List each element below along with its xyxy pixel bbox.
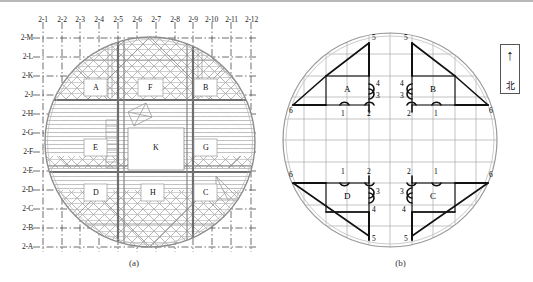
column-label: 2-7 — [147, 15, 165, 24]
row-label: 2-L — [0, 52, 33, 61]
zone-label-d: D — [344, 192, 351, 201]
figure-root: 2-1 2-2 2-3 2-4 2-5 2-6 2-7 2-8 2-9 2-10… — [0, 0, 533, 282]
zone-label-a: A — [92, 83, 100, 92]
zone-label-k: K — [152, 143, 160, 152]
north-indicator: ↑ 北 — [500, 44, 520, 94]
panel-a-caption: (a) — [0, 258, 268, 268]
column-label: 2-2 — [53, 15, 71, 24]
point-label-b-1: 1 — [434, 110, 438, 118]
panel-b-caption: (b) — [268, 258, 533, 268]
zone-label-g: G — [202, 143, 210, 152]
column-label: 2-6 — [128, 15, 146, 24]
panel-a-drawing — [0, 0, 268, 282]
point-label-c-4: 4 — [402, 206, 406, 214]
point-label-d-3: 3 — [376, 188, 380, 196]
point-label-d-4: 4 — [372, 206, 376, 214]
zone-label-h: H — [149, 188, 157, 197]
column-label: 2-3 — [71, 15, 89, 24]
point-label-a-5: 5 — [372, 34, 376, 42]
point-label-b-2: 2 — [407, 110, 411, 118]
zone-label-b: B — [430, 85, 436, 94]
point-label-b-6: 6 — [489, 107, 493, 115]
north-arrow-icon: ↑ — [506, 48, 514, 63]
point-label-b-3: 3 — [400, 92, 404, 100]
row-label: 2-K — [0, 71, 33, 80]
point-label-c-5: 5 — [404, 235, 408, 243]
row-label: 2-J — [0, 90, 33, 99]
row-label: 2-D — [0, 185, 33, 194]
point-label-c-6: 6 — [489, 171, 493, 179]
column-label: 2-10 — [201, 15, 222, 24]
zone-label-d: D — [92, 188, 100, 197]
column-label: 2-8 — [166, 15, 184, 24]
point-label-a-3: 3 — [376, 92, 380, 100]
zone-label-c: C — [430, 192, 436, 201]
point-label-a-6: 6 — [289, 107, 293, 115]
point-label-d-5: 5 — [372, 235, 376, 243]
point-label-d-6: 6 — [289, 171, 293, 179]
row-label: 2-B — [0, 223, 33, 232]
zone-a-sensor-group — [293, 43, 374, 112]
point-label-c-3: 3 — [400, 188, 404, 196]
column-label: 2-9 — [184, 15, 202, 24]
panel-a: 2-1 2-2 2-3 2-4 2-5 2-6 2-7 2-8 2-9 2-10… — [0, 0, 268, 282]
row-label: 2-H — [0, 109, 33, 118]
column-label: 2-12 — [241, 15, 262, 24]
point-label-d-1: 1 — [341, 168, 345, 176]
row-label: 2-F — [0, 147, 33, 156]
point-label-b-5: 5 — [404, 34, 408, 42]
column-label: 2-4 — [90, 15, 108, 24]
column-label: 2-5 — [109, 15, 127, 24]
panel-b-drawing — [268, 0, 533, 282]
row-label: 2-M — [0, 33, 33, 42]
row-label: 2-C — [0, 204, 33, 213]
point-label-a-4: 4 — [376, 80, 380, 88]
zone-label-c: C — [202, 188, 209, 197]
zone-label-e: E — [92, 143, 99, 152]
row-label: 2-E — [0, 166, 33, 175]
north-label: 北 — [506, 82, 515, 91]
point-label-a-1: 1 — [341, 110, 345, 118]
point-label-c-1: 1 — [434, 168, 438, 176]
column-label: 2-1 — [34, 15, 52, 24]
zone-label-a: A — [344, 85, 351, 94]
truss-plan — [45, 37, 255, 247]
zone-label-f: F — [147, 83, 153, 92]
row-label: 2-G — [0, 128, 33, 137]
column-label: 2-11 — [221, 15, 242, 24]
point-label-d-2: 2 — [367, 168, 371, 176]
point-label-b-4: 4 — [400, 80, 404, 88]
zone-label-b: B — [202, 83, 209, 92]
point-label-a-2: 2 — [367, 110, 371, 118]
panel-b: A B C D 6 1 2 3 4 5 6 1 2 3 4 5 6 1 2 3 … — [268, 0, 533, 282]
row-label: 2-A — [0, 242, 33, 251]
point-label-c-2: 2 — [407, 168, 411, 176]
